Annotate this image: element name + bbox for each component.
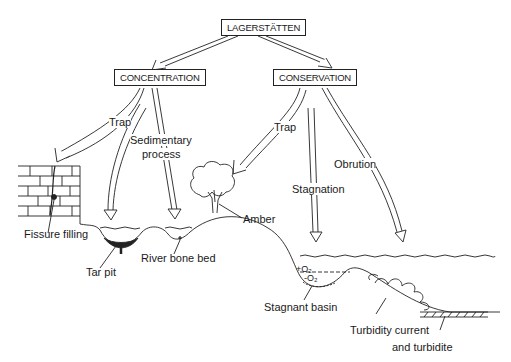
arrow-stagnation [308,108,322,242]
tree [191,161,235,213]
label-fissure-filling: Fissure filling [24,228,88,240]
leader-amber [219,204,242,218]
label-stagnant-basin: Stagnant basin [264,301,337,313]
leader-turbidity-current [376,298,386,314]
concentration-label: CONCENTRATION [120,72,200,83]
label-sedimentary: Sedimentary [130,134,192,146]
label-process: process [142,148,181,160]
label-river-bone-bed: River bone bed [141,252,216,264]
conservation-box: CONSERVATION [273,69,357,86]
arrow-root-to-conservation [258,36,332,68]
sea-surface [300,255,495,257]
root-label: LAGERSTÄTTEN [227,22,300,33]
concentration-box: CONCENTRATION [114,69,206,86]
label-amber: Amber [243,213,275,225]
label-minus-o2: -O₂ [304,272,318,284]
diagram-canvas [0,0,511,362]
leader-tarpit [100,246,116,268]
label-and-turbidite: and turbidite [392,341,453,353]
turbidity-cloud [375,279,429,310]
label-trap-right: Trap [274,121,296,133]
label-stagnation: Stagnation [292,183,345,195]
label-obrution: Obrution [334,158,376,170]
ground-profile [80,217,500,312]
leader-stagnant [304,286,312,300]
river-water [165,227,192,229]
leader-turbidite [440,316,445,330]
tarpit-water [100,227,140,229]
arrow-root-to-concentration [152,36,238,70]
label-tar-pit: Tar pit [86,266,116,278]
label-trap-left: Trap [109,116,131,128]
label-turbidity-current: Turbidity current [350,324,429,336]
root-box-lagerstatten: LAGERSTÄTTEN [221,19,306,36]
conservation-label: CONSERVATION [279,72,351,83]
brick-wall [18,166,80,224]
